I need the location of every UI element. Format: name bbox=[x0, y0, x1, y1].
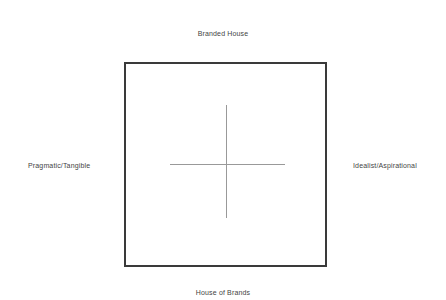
axis-line-horizontal bbox=[170, 164, 285, 165]
axis-label-bottom: House of Brands bbox=[0, 288, 446, 298]
axis-line-vertical bbox=[226, 105, 227, 218]
axis-label-top: Branded House bbox=[0, 29, 446, 39]
brand-matrix-diagram: Branded House Pragmatic/Tangible Idealis… bbox=[0, 0, 446, 300]
axis-label-left: Pragmatic/Tangible bbox=[28, 161, 90, 171]
axis-label-right: Idealist/Aspirational bbox=[353, 161, 417, 171]
